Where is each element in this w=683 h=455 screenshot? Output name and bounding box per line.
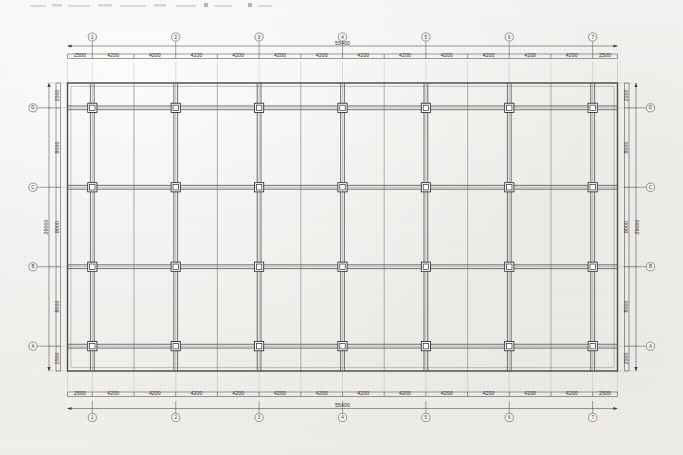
grid-bubble-bottom-5[interactable]: 5 <box>422 413 430 421</box>
top-dim-segment-label: 4200 <box>524 52 536 58</box>
grid-bubble-left-D[interactable]: D <box>29 104 37 112</box>
top-dim-segment-label: 4200 <box>357 52 369 58</box>
bottom-dim-segment-label: 4200 <box>524 390 536 396</box>
top-dim-segment-label: 4200 <box>482 52 494 58</box>
left-dim-segment-label: 8000 <box>54 300 60 312</box>
grid-bubble-left-A[interactable]: A <box>29 342 37 350</box>
column-marker <box>338 262 347 271</box>
top-dim-segment-label: 4200 <box>191 52 203 58</box>
grid-bubble-right-A[interactable]: A <box>646 342 654 350</box>
bottom-dim-segment-label: 4200 <box>482 390 494 396</box>
grid-bubble-label: 6 <box>508 415 511 420</box>
bottom-dim-segment-label: 2500 <box>599 390 611 396</box>
grid-bubble-top-2[interactable]: 2 <box>172 33 180 41</box>
column-marker <box>505 262 514 271</box>
plan-svg-canvas: 11223344556677DDCCBBAA 25004200420042004… <box>0 0 683 455</box>
grid-bubble-top-1[interactable]: 1 <box>88 33 96 41</box>
left-dim-segment-label: 2500 <box>54 353 60 365</box>
grid-bubble-label: 1 <box>91 415 94 420</box>
left-dim-segment-label: 8000 <box>54 221 60 233</box>
bottom-dim-overall-label: 55400 <box>335 402 350 408</box>
grid-bubble-top-5[interactable]: 5 <box>422 33 430 41</box>
grid-bubble-label: 7 <box>591 415 594 420</box>
top-dim-overall-label: 55400 <box>335 40 350 46</box>
top-dim-segment-label: 4200 <box>316 52 328 58</box>
grid-bubble-label: B <box>649 264 652 269</box>
top-dim-segment-label: 4200 <box>399 52 411 58</box>
column-marker <box>255 342 264 351</box>
bottom-dim-segment-label: 4200 <box>316 390 328 396</box>
column-marker <box>588 342 597 351</box>
column-marker <box>588 262 597 271</box>
bottom-dim-segment-label: 4200 <box>357 390 369 396</box>
bottom-dim-segment-label: 2500 <box>74 390 86 396</box>
left-dim-segment-label: 2500 <box>54 89 60 101</box>
column-marker <box>171 103 180 112</box>
bottom-dim-segment-label: 4200 <box>149 390 161 396</box>
top-dim-segment-label: 2500 <box>599 52 611 58</box>
column-marker <box>421 342 430 351</box>
floor-plan-drawing: 11223344556677DDCCBBAA 25004200420042004… <box>0 0 683 455</box>
grid-bubble-bottom-6[interactable]: 6 <box>505 413 513 421</box>
bottom-dim-segment-label: 4200 <box>274 390 286 396</box>
top-dim-segment-label: 2500 <box>74 52 86 58</box>
left-dim-overall-label: 29000 <box>43 220 49 235</box>
column-marker <box>421 103 430 112</box>
top-dim-segment-label: 4200 <box>232 52 244 58</box>
grid-bubble-top-3[interactable]: 3 <box>255 33 263 41</box>
right-dim-segment-label: 2500 <box>623 89 629 101</box>
grid-bubble-label: 1 <box>91 35 94 40</box>
grid-bubble-label: 2 <box>174 35 177 40</box>
left-dim-segment-label: 8000 <box>54 142 60 154</box>
column-marker <box>88 183 97 192</box>
column-marker <box>88 342 97 351</box>
grid-bubble-label: 5 <box>425 35 428 40</box>
grid-bubble-right-C[interactable]: C <box>646 183 654 191</box>
right-dim-segment-label: 8000 <box>623 221 629 233</box>
grid-bubble-label: 4 <box>341 415 344 420</box>
column-marker <box>588 183 597 192</box>
grid-bubble-bottom-1[interactable]: 1 <box>88 413 96 421</box>
grid-bubble-left-C[interactable]: C <box>29 183 37 191</box>
column-marker <box>421 183 430 192</box>
bottom-dim-segment-label: 4200 <box>191 390 203 396</box>
grid-bubble-label: 5 <box>425 415 428 420</box>
grid-bubble-bottom-3[interactable]: 3 <box>255 413 263 421</box>
top-dim-segment-label: 4200 <box>274 52 286 58</box>
column-marker <box>338 183 347 192</box>
column-marker <box>505 103 514 112</box>
top-dim-segment-label: 4200 <box>149 52 161 58</box>
right-dim-segment-label: 8000 <box>623 300 629 312</box>
grid-bubble-label: 6 <box>508 35 511 40</box>
grid-bubble-top-6[interactable]: 6 <box>505 33 513 41</box>
top-dim-segment-label: 4200 <box>441 52 453 58</box>
grid-bubble-right-D[interactable]: D <box>646 104 654 112</box>
grid-bubble-bottom-2[interactable]: 2 <box>172 413 180 421</box>
column-marker <box>171 342 180 351</box>
top-dim-segment-label: 4200 <box>107 52 119 58</box>
grid-bubble-left-B[interactable]: B <box>29 263 37 271</box>
column-marker <box>338 103 347 112</box>
grid-bubble-right-B[interactable]: B <box>646 263 654 271</box>
grid-bubble-label: B <box>31 264 34 269</box>
column-marker <box>505 342 514 351</box>
bottom-dim-segment-label: 4200 <box>232 390 244 396</box>
right-dim-overall-label: 29000 <box>634 220 640 235</box>
column-marker <box>171 262 180 271</box>
column-marker <box>338 342 347 351</box>
bottom-dim-segment-label: 4200 <box>107 390 119 396</box>
column-marker <box>255 262 264 271</box>
grid-bubble-bottom-7[interactable]: 7 <box>589 413 597 421</box>
grid-bubble-bottom-4[interactable]: 4 <box>338 413 346 421</box>
grid-bubble-label: 3 <box>258 35 261 40</box>
top-dim-segment-label: 4200 <box>566 52 578 58</box>
bottom-dim-segment-label: 4200 <box>399 390 411 396</box>
column-marker <box>171 183 180 192</box>
grid-bubble-label: 3 <box>258 415 261 420</box>
column-marker <box>88 103 97 112</box>
grid-bubble-label: 2 <box>174 415 177 420</box>
column-marker <box>255 103 264 112</box>
grid-bubbles: 11223344556677DDCCBBAA <box>29 33 655 422</box>
column-marker <box>588 103 597 112</box>
grid-bubble-top-7[interactable]: 7 <box>589 33 597 41</box>
